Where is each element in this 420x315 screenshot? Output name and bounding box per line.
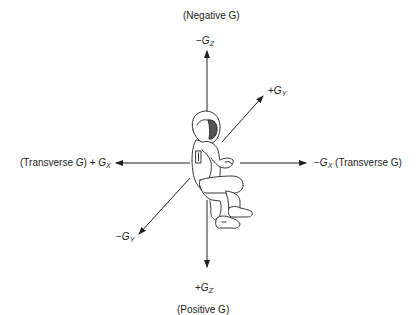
pos-gx-label: (Transverse G) + GX (20, 157, 111, 172)
label-subscript: Z (210, 40, 214, 47)
neg-gx-label: −GX (Transverse G) (314, 157, 402, 172)
label-subscript: X (106, 162, 111, 169)
boot-far (216, 216, 240, 228)
label-letter: G (202, 35, 210, 46)
label-letter: G (320, 157, 328, 168)
pos-gz-label: +GZ (195, 282, 213, 297)
thigh (199, 176, 243, 193)
astronaut-figure (192, 111, 252, 228)
neg-gy-label: −GY (116, 231, 134, 246)
negative-g-caption: (Negative G) (183, 10, 240, 21)
label-letter: G (201, 282, 209, 293)
boot-near (228, 207, 252, 218)
label-subscript: Z (209, 287, 213, 294)
bottom-caption: (Positive G) (177, 304, 229, 315)
neg-gz-label: −GZ (196, 35, 214, 50)
label-suffix: (Transverse G) (332, 157, 402, 168)
positive-g-caption: (Positive G) (177, 304, 229, 315)
pos-gy-label: +GY (268, 85, 286, 100)
label-letter: G (274, 85, 282, 96)
label-prefix: (Transverse (20, 157, 76, 168)
neg-gy-arrow (139, 178, 190, 234)
label-letter: G (98, 157, 106, 168)
label-prefix-g: G (76, 157, 84, 168)
pos-gy-arrow (222, 96, 263, 142)
label-subscript: Y (282, 90, 287, 97)
label-prefix-close: ) + (84, 157, 99, 168)
top-caption: (Negative G) (183, 10, 240, 22)
label-subscript: Y (130, 236, 135, 243)
label-letter: G (122, 231, 130, 242)
